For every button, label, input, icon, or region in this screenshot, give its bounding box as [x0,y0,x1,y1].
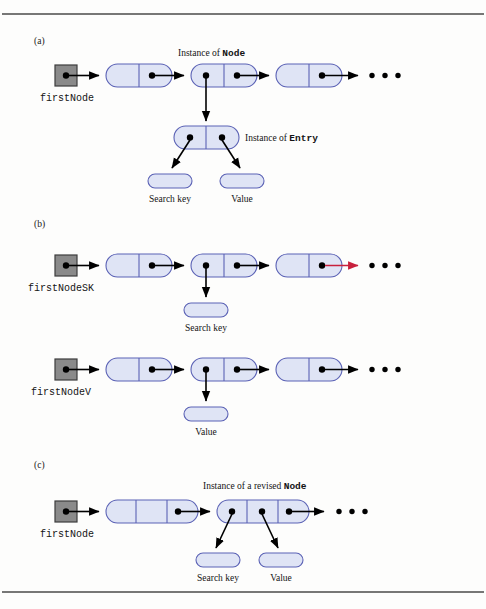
node-b1-2-key-dot [203,262,209,268]
node-a-3-next-dot [319,72,325,78]
entry-node-a-value-dot [219,134,225,140]
node-b2-2-value-dot [203,366,209,372]
node-diagram-svg: (a) Instance of Node firstNode [0,0,486,609]
node-b1-1-next-dot [149,262,155,268]
pill-label-value-a: Value [231,194,253,204]
node-b2-3-next-dot [319,366,325,372]
pill-search-key-c [196,553,240,567]
ref-dot-firstnode-c [63,508,69,514]
ellipsis-b1 [369,263,400,268]
panel-label-c: (c) [34,460,45,471]
ref-dot-firstnodev [63,366,69,372]
node-b1-3-next-dot [319,262,325,268]
pointer-label-firstnodev: firstNodeV [31,387,91,398]
panel-label-a: (a) [34,36,45,47]
panel-label-b: (b) [34,219,45,230]
pill-label-value-c: Value [270,573,292,583]
pill-value-b2 [184,407,228,421]
node-c-2-next-dot [286,508,292,514]
heading-instance-of-revised-node: Instance of a revised Node [203,481,307,492]
pill-search-key-a [148,174,192,188]
pill-label-search-key-b1: Search key [185,323,227,333]
pointer-label-firstnode-c: firstNode [40,529,94,540]
heading-instance-of-node: Instance of Node [178,48,245,59]
pointer-label-firstnode-a: firstNode [40,93,94,104]
pill-label-search-key-a: Search key [149,194,191,204]
node-c-1-next-dot [175,508,181,514]
heading-instance-of-entry: Instance of Entry [245,133,318,144]
pill-label-value-b2: Value [195,427,217,437]
ellipsis-c [336,509,367,514]
pill-label-search-key-c: Search key [197,573,239,583]
node-b2-2-next-dot [234,366,240,372]
pill-search-key-b1 [184,303,228,317]
node-a-2-entry-dot [203,72,209,78]
node-a-1-next-dot [149,72,155,78]
pill-value-c [259,553,303,567]
node-b2-1-next-dot [149,366,155,372]
node-b1-2-next-dot [234,262,240,268]
ref-dot-firstnode-a [63,72,69,78]
node-c-2-value-dot [259,508,265,514]
node-c-2-key-dot [229,508,235,514]
ellipsis-a [369,73,400,78]
entry-node-a [174,126,239,149]
ref-dot-firstnodesk [63,262,69,268]
figure-page: (a) Instance of Node firstNode [0,0,486,609]
node-a-2-next-dot [234,72,240,78]
entry-node-a-key-dot [187,134,193,140]
ellipsis-b2 [369,367,400,372]
pointer-label-firstnodesk: firstNodeSK [28,283,94,294]
pill-value-a [220,174,264,188]
